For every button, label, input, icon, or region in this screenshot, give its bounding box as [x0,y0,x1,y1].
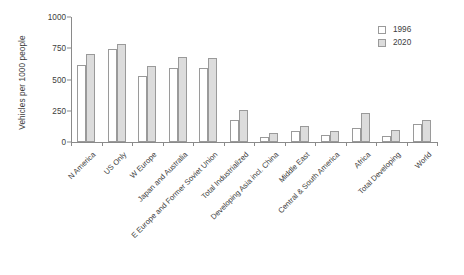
x-axis-tick-mark [315,142,316,146]
bar-group [138,17,156,142]
bar-2020 [300,126,309,142]
x-axis-tick-mark [254,142,255,146]
bar-1996 [230,120,239,143]
bar-1996 [352,128,361,142]
bar-2020 [330,131,339,142]
bar-2020 [178,57,187,142]
legend-swatch-2020 [378,39,386,47]
x-axis-label: US Only [102,150,128,176]
bar-2020 [86,54,95,142]
bar-1996 [108,49,117,142]
bar-group [199,17,217,142]
x-axis-label: Africa [352,150,372,170]
bar-1996 [169,68,178,142]
y-axis-tick-mark [67,110,71,111]
x-axis-label: N America [66,150,97,181]
bar-group [169,17,187,142]
legend-label-1996: 1996 [393,25,411,34]
legend-label-2020: 2020 [393,38,411,47]
y-axis-title: Vehicles per 1000 people [18,18,27,148]
y-axis-tick-mark [67,48,71,49]
x-axis-tick-mark [407,142,408,146]
bar-2020 [269,133,278,142]
y-axis-tick-mark [67,17,71,18]
bar-group [77,17,95,142]
chart-legend: 1996 2020 [378,23,411,49]
x-axis-tick-mark [346,142,347,146]
bar-1996 [382,136,391,142]
bar-2020 [239,110,248,142]
legend-item-2020: 2020 [378,36,411,49]
x-axis-tick-mark [224,142,225,146]
bar-1996 [291,131,300,142]
x-axis-tick-mark [376,142,377,146]
bar-group [413,17,431,142]
x-axis-label: World [413,150,433,170]
x-axis-tick-mark [193,142,194,146]
bar-group [352,17,370,142]
x-axis-tick-mark [163,142,164,146]
bar-1996 [321,135,330,142]
bar-2020 [147,66,156,142]
bar-2020 [208,58,217,142]
bar-1996 [199,68,208,142]
x-axis-label: W Europe [128,150,158,180]
bar-1996 [138,76,147,142]
vehicle-ownership-bar-chart: Vehicles per 1000 people 02505007501000 … [0,0,464,275]
x-axis-tick-mark [437,142,438,146]
bar-2020 [361,113,370,142]
x-axis-tick-mark [285,142,286,146]
bar-2020 [117,44,126,142]
legend-swatch-1996 [378,26,386,34]
bar-group [321,17,339,142]
bar-1996 [413,124,422,142]
bar-group [291,17,309,142]
bar-2020 [422,120,431,142]
x-axis-tick-mark [102,142,103,146]
legend-item-1996: 1996 [378,23,411,36]
bar-group [230,17,248,142]
x-axis-tick-mark [71,142,72,146]
y-axis-tick-mark [67,79,71,80]
bar-2020 [391,130,400,142]
x-axis-tick-mark [132,142,133,146]
bar-group [260,17,278,142]
bar-group [108,17,126,142]
x-axis-label: Central & South America [276,150,341,215]
bar-1996 [77,65,86,143]
bar-1996 [260,137,269,142]
